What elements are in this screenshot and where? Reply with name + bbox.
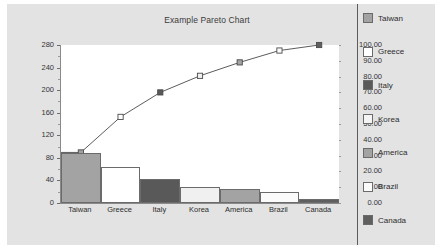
left-axis-tick-label: 280 xyxy=(41,41,54,49)
legend-item-korea[interactable]: Korea xyxy=(363,113,399,125)
cumulative-line xyxy=(61,45,319,152)
category-label-korea: Korea xyxy=(179,205,219,214)
left-axis-tick-label: 200 xyxy=(41,86,54,94)
legend-swatch-icon xyxy=(363,47,373,57)
right-axis-tick xyxy=(339,92,341,93)
bar-italy xyxy=(140,179,180,203)
category-label-america: America xyxy=(219,205,259,214)
legend: TaiwanGreeceItalyKoreaAmericaBrazilCanad… xyxy=(363,6,437,243)
right-axis-tick xyxy=(339,171,341,172)
bar-canada xyxy=(299,199,339,203)
left-axis-tick-label: 240 xyxy=(41,64,54,72)
right-axis-ticks xyxy=(339,45,343,203)
legend-swatch-icon xyxy=(363,80,373,90)
cumulative-marker-brazil xyxy=(277,48,282,53)
legend-label: Greece xyxy=(378,47,404,56)
left-axis-tick-label: 0 xyxy=(50,199,54,207)
right-axis-tick xyxy=(339,124,341,125)
right-axis-tick xyxy=(339,77,341,78)
right-axis-tick xyxy=(339,203,341,204)
cumulative-marker-greece xyxy=(118,114,123,119)
cumulative-marker-italy xyxy=(158,90,163,95)
legend-swatch-icon xyxy=(363,182,373,192)
left-axis-tick-label: 40 xyxy=(46,176,54,184)
right-axis-tick xyxy=(339,187,341,188)
category-label-taiwan: Taiwan xyxy=(60,205,100,214)
legend-item-greece[interactable]: Greece xyxy=(363,46,404,58)
legend-label: Taiwan xyxy=(378,14,403,23)
category-axis-labels: TaiwanGreeceItalyKoreaAmericaBrazilCanad… xyxy=(60,205,338,219)
legend-label: Canada xyxy=(378,216,406,225)
left-axis-tick-label: 120 xyxy=(41,131,54,139)
category-label-greece: Greece xyxy=(100,205,140,214)
left-axis-tick-label: 80 xyxy=(46,154,54,162)
left-axis-tick-label: 160 xyxy=(41,109,54,117)
category-label-brazil: Brazil xyxy=(259,205,299,214)
legend-swatch-icon xyxy=(363,114,373,124)
legend-item-brazil[interactable]: Brazil xyxy=(363,181,398,193)
legend-label: Brazil xyxy=(378,182,398,191)
category-label-canada: Canada xyxy=(298,205,338,214)
bar-korea xyxy=(180,187,220,203)
chart-title: Example Pareto Chart xyxy=(67,15,347,25)
legend-label: Italy xyxy=(378,81,393,90)
right-axis-tick xyxy=(339,45,341,46)
legend-item-america[interactable]: America xyxy=(363,147,407,159)
category-label-italy: Italy xyxy=(139,205,179,214)
legend-swatch-icon xyxy=(363,148,373,158)
bar-greece xyxy=(101,167,141,203)
bar-taiwan xyxy=(61,153,101,203)
plot-area xyxy=(60,45,339,204)
plot-inner xyxy=(61,45,339,203)
legend-item-taiwan[interactable]: Taiwan xyxy=(363,12,403,24)
cumulative-marker-canada xyxy=(317,42,322,47)
legend-label: Korea xyxy=(378,115,399,124)
bar-america xyxy=(220,189,260,203)
left-value-axis: 04080120160200240280 xyxy=(20,45,54,203)
legend-swatch-icon xyxy=(363,13,373,23)
right-axis-tick xyxy=(339,108,341,109)
cumulative-marker-korea xyxy=(197,73,202,78)
right-axis-tick xyxy=(339,140,341,141)
right-axis-tick xyxy=(339,156,341,157)
pareto-chart: Example Pareto Chart 0408012016020024028… xyxy=(0,0,442,249)
legend-divider xyxy=(357,4,358,245)
cumulative-marker-america xyxy=(237,60,242,65)
bar-brazil xyxy=(260,192,300,203)
legend-item-italy[interactable]: Italy xyxy=(363,79,393,91)
legend-label: America xyxy=(378,148,407,157)
right-axis-tick xyxy=(339,61,341,62)
legend-item-canada[interactable]: Canada xyxy=(363,214,406,226)
legend-swatch-icon xyxy=(363,215,373,225)
